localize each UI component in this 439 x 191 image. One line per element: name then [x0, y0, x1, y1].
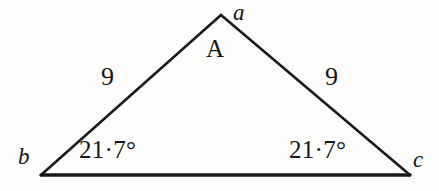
side-length-label-right: 9 — [325, 64, 338, 90]
side-length-label-left: 9 — [101, 64, 114, 90]
angle-label-b: 21·7° — [79, 137, 136, 162]
vertex-label-c: c — [413, 148, 423, 171]
angle-label-a: A — [206, 36, 224, 61]
vertex-label-b: b — [18, 145, 30, 168]
angle-label-c: 21·7° — [289, 137, 346, 162]
triangle-outline — [0, 0, 439, 191]
triangle-diagram: a b c 9 9 21·7° 21·7° A — [0, 0, 439, 191]
vertex-label-a: a — [233, 1, 245, 24]
